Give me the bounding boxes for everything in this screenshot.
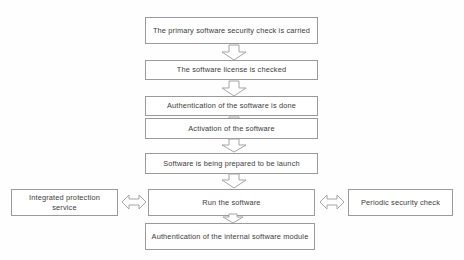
node-internal-software-authentication-label: Authentication of the internal software …: [152, 232, 309, 242]
connector-protection-to-run: [122, 194, 146, 210]
connector-run-to-periodic-check: [320, 194, 344, 210]
node-software-prepared[interactable]: Software is being prepared to be launch: [145, 153, 318, 174]
node-software-authentication[interactable]: Authentication of the software is done: [145, 96, 318, 116]
connector-activation-to-prepared: [221, 139, 247, 153]
node-integrated-protection-service-label: Integrated protection service: [16, 193, 113, 213]
node-software-prepared-label: Software is being prepared to be launch: [163, 159, 300, 169]
node-internal-software-authentication[interactable]: Authentication of the internal software …: [145, 223, 315, 250]
connector-license-to-authentication: [221, 81, 247, 97]
node-primary-security-check-label: The primary software security check is c…: [153, 26, 310, 36]
node-software-activation[interactable]: Activation of the software: [145, 118, 318, 139]
node-software-authentication-label: Authentication of the software is done: [167, 101, 296, 111]
node-run-the-software[interactable]: Run the software: [148, 189, 315, 216]
node-periodic-security-check-label: Periodic security check: [361, 198, 440, 208]
node-run-the-software-label: Run the software: [202, 198, 260, 208]
connector-prepared-to-run: [221, 174, 247, 189]
flowchart-canvas: The primary software security check is c…: [0, 0, 464, 260]
connector-primary-to-license: [221, 45, 247, 61]
node-primary-security-check[interactable]: The primary software security check is c…: [145, 17, 318, 44]
node-integrated-protection-service[interactable]: Integrated protection service: [11, 189, 118, 216]
node-software-license-checked[interactable]: The software license is checked: [145, 60, 318, 80]
node-periodic-security-check[interactable]: Periodic security check: [348, 189, 453, 216]
node-software-activation-label: Activation of the software: [188, 124, 274, 134]
node-software-license-checked-label: The software license is checked: [177, 65, 286, 75]
